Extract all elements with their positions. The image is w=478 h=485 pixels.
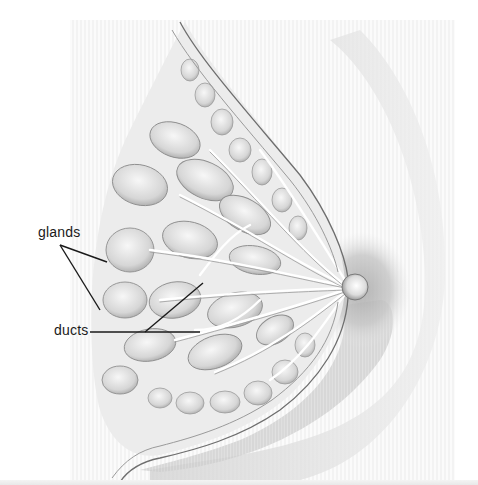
glands-label: glands (38, 225, 80, 239)
breast-anatomy-illustration (0, 0, 478, 485)
ducts-label: ducts (54, 323, 88, 337)
nipple (342, 274, 368, 300)
bottom-edge (0, 480, 478, 485)
